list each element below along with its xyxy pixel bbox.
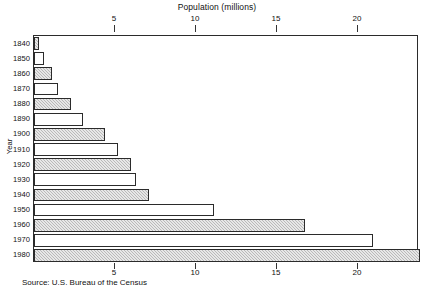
- bar-1860: [34, 67, 52, 80]
- plot-area: [33, 35, 418, 262]
- bar-1930: [34, 173, 136, 186]
- x-tick-label-top-15: 15: [272, 14, 281, 23]
- x-tick-label-top-20: 20: [353, 14, 362, 23]
- y-tick-label-1970: 1970: [6, 235, 30, 244]
- y-tick-label-1880: 1880: [6, 99, 30, 108]
- bar-1870: [34, 83, 58, 96]
- bar-1850: [34, 52, 44, 65]
- bar-1890: [34, 113, 83, 126]
- y-tick-label-1890: 1890: [6, 114, 30, 123]
- y-tick-label-1850: 1850: [6, 53, 30, 62]
- y-tick-label-1860: 1860: [6, 68, 30, 77]
- bar-1950: [34, 204, 214, 217]
- y-tick-label-1870: 1870: [6, 83, 30, 92]
- bar-1940: [34, 189, 149, 202]
- x-tick-mark-top-10: [195, 25, 196, 32]
- y-tick-label-1960: 1960: [6, 220, 30, 229]
- y-tick-label-1840: 1840: [6, 38, 30, 47]
- bar-chart: Population (millions) Year 5101520 51015…: [0, 0, 434, 290]
- bar-1910: [34, 143, 118, 156]
- source-note: Source: U.S. Bureau of the Census: [22, 278, 147, 287]
- y-tick-label-1940: 1940: [6, 189, 30, 198]
- x-axis-title-top: Population (millions): [0, 2, 434, 12]
- y-axis-title: Year: [5, 127, 14, 167]
- bar-1960: [34, 219, 305, 232]
- x-tick-label-top-10: 10: [191, 14, 200, 23]
- bar-1970: [34, 234, 373, 247]
- bar-1900: [34, 128, 105, 141]
- bar-1840: [34, 37, 39, 50]
- x-tick-label-bottom-15: 15: [272, 268, 281, 277]
- bar-1980: [34, 249, 420, 262]
- y-tick-label-1930: 1930: [6, 174, 30, 183]
- x-tick-mark-top-5: [114, 25, 115, 32]
- y-tick-label-1950: 1950: [6, 205, 30, 214]
- y-tick-label-1980: 1980: [6, 250, 30, 259]
- x-tick-label-bottom-10: 10: [191, 268, 200, 277]
- x-tick-label-bottom-5: 5: [112, 268, 116, 277]
- x-tick-mark-top-15: [276, 25, 277, 32]
- x-tick-label-bottom-20: 20: [353, 268, 362, 277]
- bar-1880: [34, 98, 71, 111]
- bar-1920: [34, 158, 131, 171]
- x-tick-label-top-5: 5: [112, 14, 116, 23]
- x-tick-mark-top-20: [357, 25, 358, 32]
